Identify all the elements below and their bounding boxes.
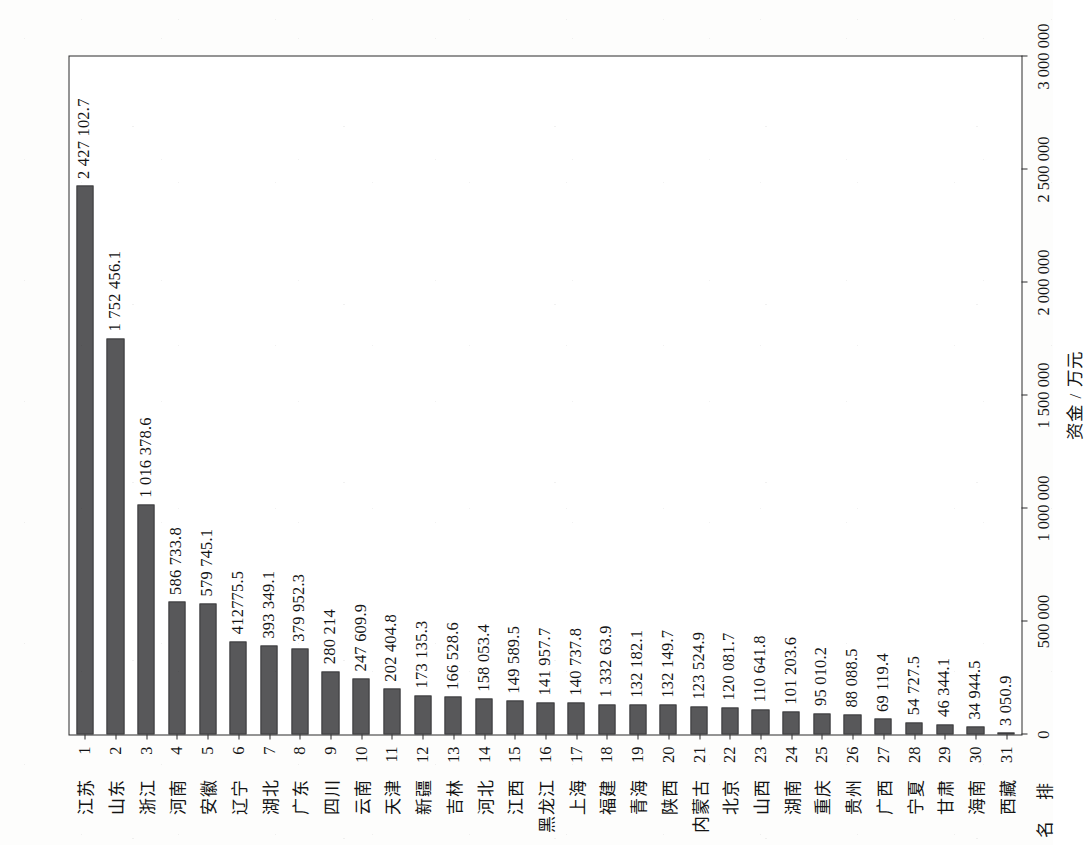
bar: [751, 709, 768, 734]
category-tick: [514, 734, 515, 739]
category-rank-label: 29: [934, 746, 954, 772]
category-rank-label: 23: [750, 746, 770, 772]
category-rank-label: 26: [842, 746, 862, 772]
bar-value-label: 202 404.8: [383, 613, 400, 681]
category-tick: [852, 734, 853, 739]
bar-value-label: 1 752 456.1: [107, 250, 124, 331]
category-tick: [883, 734, 884, 739]
category-rank-label: 4: [166, 746, 186, 772]
value-axis-tick-label: 3 000 000: [1033, 23, 1053, 89]
bar-value-label: 3 050.9: [997, 675, 1014, 726]
category-rank-label: 7: [259, 746, 279, 772]
category-name-label: 山东: [103, 778, 128, 840]
category-name-label: 甘肃: [932, 778, 957, 840]
bar: [506, 700, 523, 734]
category-rank-label: 31: [996, 746, 1016, 772]
category-tick: [115, 734, 116, 739]
category-name-label: 重庆: [809, 778, 834, 840]
category-rank-label: 24: [781, 746, 801, 772]
category-name-label: 青海: [625, 778, 650, 840]
bar-value-label: 1 332 63.9: [598, 625, 615, 697]
category-rank-label: 20: [658, 746, 678, 772]
bar-value-label: 379 952.3: [291, 573, 308, 641]
bar: [106, 338, 123, 734]
bar-value-label: 132 149.7: [660, 629, 677, 697]
bar-value-label: 120 081.7: [721, 632, 738, 700]
bar-value-label: 54 727.5: [905, 655, 922, 714]
bar-value-label: 173 135.3: [414, 620, 431, 688]
category-name-label: 江西: [502, 778, 527, 840]
category-rank-label: 1: [74, 746, 94, 772]
bar: [137, 504, 154, 734]
plot-area: 2 427 102.71江苏1 752 456.12山东1 016 378.63…: [68, 55, 1022, 735]
category-name-label: 山西: [747, 778, 772, 840]
category-name-label: 广西: [870, 778, 895, 840]
bar: [260, 645, 277, 734]
bar-value-label: 69 119.4: [875, 653, 892, 712]
category-tick: [146, 734, 147, 739]
category-name-label: 内蒙古: [686, 778, 711, 840]
category-tick: [821, 734, 822, 739]
bar: [168, 601, 185, 734]
bar: [874, 718, 891, 734]
category-name-label: 上海: [563, 778, 588, 840]
category-rank-label: 5: [197, 746, 217, 772]
category-tick: [453, 734, 454, 739]
category-rank-label: 18: [596, 746, 616, 772]
category-rank-label: 19: [627, 746, 647, 772]
value-axis-tick: [1021, 168, 1027, 169]
category-rank-label: 13: [443, 746, 463, 772]
rank-axis-header: 排: [1030, 781, 1055, 799]
bar-value-label: 140 737.8: [567, 627, 584, 695]
bar-value-label: 110 641.8: [752, 635, 769, 702]
category-name-label: 湖北: [256, 778, 281, 840]
category-tick: [422, 734, 423, 739]
category-name-label: 河南: [164, 778, 189, 840]
category-rank-label: 21: [689, 746, 709, 772]
category-name-label: 安徽: [195, 778, 220, 840]
bar: [199, 603, 216, 734]
bar-value-label: 247 609.9: [352, 603, 369, 671]
bar: [383, 688, 400, 734]
category-rank-label: 25: [811, 746, 831, 772]
category-tick: [207, 734, 208, 739]
category-tick: [299, 734, 300, 739]
category-rank-label: 10: [351, 746, 371, 772]
bar: [966, 726, 983, 734]
bar: [352, 678, 369, 734]
bar-value-label: 123 524.9: [690, 631, 707, 699]
category-name-label: 福建: [594, 778, 619, 840]
category-tick: [637, 734, 638, 739]
value-axis-tick-label: 2 500 000: [1033, 136, 1053, 202]
bar-value-label: 2 427 102.7: [76, 98, 93, 179]
bar-value-label: 149 589.5: [506, 625, 523, 693]
category-rank-label: 9: [320, 746, 340, 772]
category-tick: [576, 734, 577, 739]
category-name-label: 贵州: [840, 778, 865, 840]
bar: [629, 704, 646, 734]
value-axis-tick-label: 0: [1033, 730, 1053, 738]
bar-value-label: 1 016 378.6: [138, 417, 155, 498]
category-tick: [238, 734, 239, 739]
category-rank-label: 6: [228, 746, 248, 772]
category-tick: [668, 734, 669, 739]
value-axis-tick: [1021, 507, 1027, 508]
bar: [659, 704, 676, 734]
category-rank-label: 2: [105, 746, 125, 772]
bar: [321, 671, 338, 734]
category-tick: [944, 734, 945, 739]
category-name-label: 湖南: [778, 778, 803, 840]
category-tick: [606, 734, 607, 739]
category-name-label: 辽宁: [225, 778, 250, 840]
category-tick: [484, 734, 485, 739]
category-tick: [269, 734, 270, 739]
bar-value-label: 280 214: [322, 609, 339, 664]
bar-value-label: 46 344.1: [936, 657, 953, 716]
bar: [475, 698, 492, 734]
category-name-label: 云南: [348, 778, 373, 840]
bar: [229, 641, 246, 734]
category-tick: [391, 734, 392, 739]
category-rank-label: 12: [412, 746, 432, 772]
category-rank-label: 16: [535, 746, 555, 772]
